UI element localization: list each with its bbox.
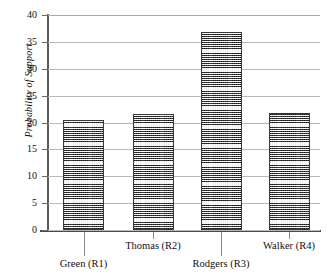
bar-rodgers: [201, 32, 242, 230]
y-tick-label: 5: [0, 198, 37, 208]
y-tick-label: 10: [0, 171, 37, 181]
x-axis-label: Green (R1): [60, 258, 108, 270]
y-tick-mark: [42, 149, 48, 150]
y-tick-label: 30: [0, 64, 37, 74]
y-tick-mark: [42, 230, 48, 231]
y-tick-label: 35: [0, 37, 37, 47]
x-axis-label: Walker (R4): [263, 240, 315, 252]
y-tick-mark: [42, 203, 48, 204]
y-tick-label: 15: [0, 144, 37, 154]
bar-thomas: [133, 114, 174, 230]
plot-area: [48, 15, 320, 230]
y-tick-label: 40: [0, 10, 37, 20]
y-tick-mark: [42, 123, 48, 124]
x-tick-mark: [289, 232, 290, 239]
y-tick-mark: [42, 96, 48, 97]
y-tick-label: 25: [0, 91, 37, 101]
bar-walker: [269, 113, 310, 230]
bar-green: [63, 120, 104, 230]
gridline: [48, 42, 320, 43]
x-tick-mark: [84, 232, 85, 256]
x-axis-label: Rodgers (R3): [193, 258, 250, 270]
x-tick-mark: [153, 232, 154, 239]
y-tick-label: 0: [0, 225, 37, 235]
gridline: [48, 96, 320, 97]
gridline: [48, 69, 320, 70]
x-axis-label: Thomas (R2): [125, 240, 181, 252]
y-tick-mark: [42, 69, 48, 70]
y-tick-mark: [42, 42, 48, 43]
gridline: [48, 230, 320, 231]
y-tick-label: 20: [0, 118, 37, 128]
y-tick-mark: [42, 176, 48, 177]
x-tick-mark: [221, 232, 222, 256]
gridline: [48, 15, 320, 16]
bar-chart: Probability of Support 0510152025303540 …: [0, 0, 327, 280]
y-tick-mark: [42, 15, 48, 16]
